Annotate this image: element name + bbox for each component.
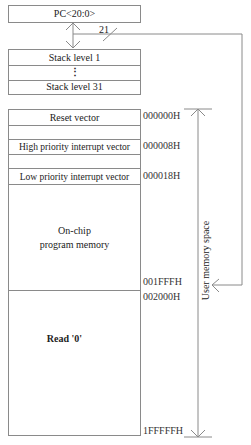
address-002000h: 002000H — [143, 291, 180, 302]
user-memory-space-label: User memory space — [200, 216, 211, 306]
pc-register: PC<20:0> — [8, 5, 141, 23]
address-1fffffh: 1FFFFFH — [143, 425, 183, 436]
stack: Stack level 1 ⋮ Stack level 31 — [8, 49, 141, 95]
bus-width-label: 21 — [99, 24, 109, 35]
low-priority-interrupt-vector: Low priority interrupt vector — [9, 170, 140, 184]
address-000000h: 000000H — [143, 110, 180, 121]
stack-ellipsis: ⋮ — [9, 65, 140, 79]
read-zero-label: Read '0' — [0, 332, 140, 346]
address-000018h: 000018H — [143, 170, 180, 181]
high-priority-interrupt-vector: High priority interrupt vector — [9, 140, 140, 154]
stack-level-31: Stack level 31 — [9, 80, 140, 94]
reset-vector: Reset vector — [9, 111, 140, 125]
address-001fffh: 001FFFH — [143, 276, 182, 287]
stack-level-1: Stack level 1 — [9, 51, 140, 65]
program-memory-map: Reset vector High priority interrupt vec… — [8, 109, 141, 436]
program-memory-label: program memory — [9, 238, 140, 252]
pc-label: PC<20:0> — [9, 7, 140, 21]
address-000008h: 000008H — [143, 140, 180, 151]
on-chip-label: On-chip — [9, 224, 140, 238]
